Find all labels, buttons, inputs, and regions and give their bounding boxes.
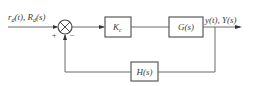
output-arrow-icon bbox=[235, 25, 242, 29]
minus-sign: – bbox=[69, 30, 75, 39]
feedback-arrow-icon bbox=[63, 34, 67, 40]
block-diagram: rd(t), Rd(s) + – Kc G(s) y(t), Y(s) bbox=[0, 0, 253, 86]
plus-sign: + bbox=[52, 31, 57, 40]
input-label: rd(t), Rd(s) bbox=[8, 12, 46, 23]
feedback-label: H(s) bbox=[136, 67, 153, 77]
plant-label: G(s) bbox=[178, 22, 194, 32]
input-arrow-icon bbox=[53, 25, 58, 29]
feedback-return-line bbox=[65, 35, 131, 72]
controller-arrow-icon bbox=[99, 25, 105, 29]
output-label: y(t), Y(s) bbox=[204, 15, 237, 25]
